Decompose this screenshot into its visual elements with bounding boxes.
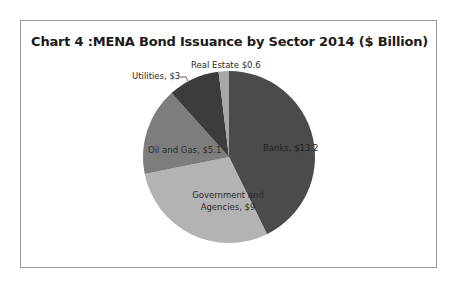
label-government-line1: Government and — [178, 189, 278, 201]
label-government: Government and Agencies, $9 — [178, 189, 278, 213]
pie-chart — [0, 0, 459, 285]
utilities-leader-line — [180, 77, 188, 81]
label-real-estate: Real Estate $0.6 — [191, 60, 261, 70]
label-banks: Banks, $13.2 — [263, 143, 319, 153]
pie-slices — [143, 71, 315, 243]
label-oil-and-gas: Oil and Gas, $5.1 — [148, 145, 221, 155]
label-government-line2: Agencies, $9 — [178, 201, 278, 213]
label-utilities: Utilities, $3 — [132, 71, 180, 81]
